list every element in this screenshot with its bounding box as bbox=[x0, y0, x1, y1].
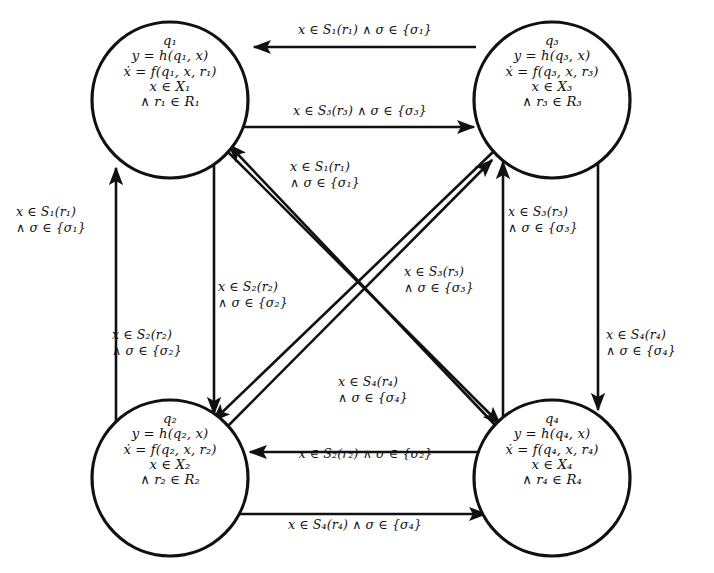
edge-label-q2-q1-left: x ∈ S₁(r₁) ∧ σ ∈ {σ₁} bbox=[16, 204, 86, 236]
node-q1-line-1: y = h(q₁, x) bbox=[70, 48, 270, 63]
edge-label-q1-q3-top-line-0: x ∈ S₃(r₃) ∧ σ ∈ {σ₃} bbox=[230, 103, 490, 119]
edge-label-q3-q2-diagonal-line-0: x ∈ S₂(r₂) bbox=[218, 279, 288, 295]
node-q4-line-0: q₄ bbox=[452, 411, 652, 426]
edge-label-q4-q1-diagonal-line-1: ∧ σ ∈ {σ₁} bbox=[290, 175, 360, 191]
edge-label-q4-q2-bottom: x ∈ S₂(r₂) ∧ σ ∈ {σ₂} bbox=[238, 446, 493, 462]
node-q4-line-1: y = h(q₄, x) bbox=[452, 426, 652, 441]
edge-label-q4-q3-right-line-1: ∧ σ ∈ {σ₃} bbox=[508, 220, 578, 236]
edge-label-q2-q4-bottom-line-0: x ∈ S₄(r₄) ∧ σ ∈ {σ₄} bbox=[225, 517, 485, 533]
edge-label-q3-q2-diagonal-line-1: ∧ σ ∈ {σ₂} bbox=[218, 295, 288, 311]
edge-label-q1-q4-diagonal-line-1: ∧ σ ∈ {σ₄} bbox=[338, 390, 408, 406]
edge-label-q1-q2-left: x ∈ S₂(r₂) ∧ σ ∈ {σ₂} bbox=[112, 327, 182, 359]
node-q3-line-3: x ∈ X₃ bbox=[452, 79, 652, 94]
node-q2-line-1: y = h(q₂, x) bbox=[70, 426, 270, 441]
node-q1-label: q₁ y = h(q₁, x) ẋ = f(q₁, x, r₁) x ∈ X₁ … bbox=[70, 33, 270, 110]
edge-label-q4-q3-right-line-0: x ∈ S₃(r₃) bbox=[508, 204, 578, 220]
edge-label-q2-q4-bottom: x ∈ S₄(r₄) ∧ σ ∈ {σ₄} bbox=[225, 517, 485, 533]
node-q2-line-0: q₂ bbox=[70, 411, 270, 426]
edge-label-q3-q4-right: x ∈ S₄(r₄) ∧ σ ∈ {σ₄} bbox=[606, 327, 676, 359]
edge-label-q4-q1-diagonal-line-0: x ∈ S₁(r₁) bbox=[290, 159, 360, 175]
node-q3-label: q₃ y = h(q₃, x) ẋ = f(q₃, x, r₃) x ∈ X₃ … bbox=[452, 33, 652, 110]
edge-label-q2-q3-diagonal-line-1: ∧ σ ∈ {σ₃} bbox=[404, 280, 474, 296]
edge-label-q1-q2-left-line-1: ∧ σ ∈ {σ₂} bbox=[112, 343, 182, 359]
edge-label-q2-q1-left-line-1: ∧ σ ∈ {σ₁} bbox=[16, 220, 86, 236]
edge-label-q1-q3-top: x ∈ S₃(r₃) ∧ σ ∈ {σ₃} bbox=[230, 103, 490, 119]
edge-label-q4-q1-diagonal: x ∈ S₁(r₁) ∧ σ ∈ {σ₁} bbox=[290, 159, 360, 191]
edge-label-q2-q1-left-line-0: x ∈ S₁(r₁) bbox=[16, 204, 86, 220]
edge-label-q2-q3-diagonal: x ∈ S₃(r₃) ∧ σ ∈ {σ₃} bbox=[404, 264, 474, 296]
edge-label-q3-q1-top: x ∈ S₁(r₁) ∧ σ ∈ {σ₁} bbox=[235, 22, 495, 38]
node-q3-line-2: ẋ = f(q₃, x, r₃) bbox=[452, 64, 652, 79]
edge-label-q3-q4-right-line-1: ∧ σ ∈ {σ₄} bbox=[606, 343, 676, 359]
edge-label-q3-q1-top-line-0: x ∈ S₁(r₁) ∧ σ ∈ {σ₁} bbox=[235, 22, 495, 38]
node-q1-line-3: x ∈ X₁ bbox=[70, 79, 270, 94]
edge-label-q1-q2-left-line-0: x ∈ S₂(r₂) bbox=[112, 327, 182, 343]
node-q1-line-2: ẋ = f(q₁, x, r₁) bbox=[70, 64, 270, 79]
diagram-canvas: q₁ y = h(q₁, x) ẋ = f(q₁, x, r₁) x ∈ X₁ … bbox=[0, 0, 714, 573]
node-q4-line-4: ∧ r₄ ∈ R₄ bbox=[452, 472, 652, 487]
edge-label-q3-q2-diagonal: x ∈ S₂(r₂) ∧ σ ∈ {σ₂} bbox=[218, 279, 288, 311]
node-q2-line-4: ∧ r₂ ∈ R₂ bbox=[70, 472, 270, 487]
edge-label-q1-q4-diagonal-line-0: x ∈ S₄(r₄) bbox=[338, 374, 408, 390]
edge-label-q3-q4-right-line-0: x ∈ S₄(r₄) bbox=[606, 327, 676, 343]
edge-label-q1-q4-diagonal: x ∈ S₄(r₄) ∧ σ ∈ {σ₄} bbox=[338, 374, 408, 406]
edge-label-q2-q3-diagonal-line-0: x ∈ S₃(r₃) bbox=[404, 264, 474, 280]
node-q3-line-1: y = h(q₃, x) bbox=[452, 48, 652, 63]
edge-label-q4-q3-right: x ∈ S₃(r₃) ∧ σ ∈ {σ₃} bbox=[508, 204, 578, 236]
edge-label-q4-q2-bottom-line-0: x ∈ S₂(r₂) ∧ σ ∈ {σ₂} bbox=[238, 446, 493, 462]
